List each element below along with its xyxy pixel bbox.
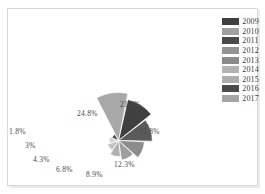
legend-label-2012: 2012 — [242, 46, 259, 55]
value-label-2009: 21.4% — [120, 100, 141, 109]
legend-item-2015[interactable]: 2015 — [222, 75, 259, 85]
legend-label-2017: 2017 — [242, 94, 259, 103]
legend-label-2013: 2013 — [242, 56, 259, 65]
legend-swatch-2014 — [222, 66, 239, 73]
legend-swatch-2011 — [222, 37, 239, 44]
legend-item-2009[interactable]: 2009 — [222, 17, 259, 27]
value-label-2014: 4.3% — [33, 155, 50, 164]
value-label-2012: 8.9% — [86, 170, 103, 179]
value-label-2015: 3% — [25, 141, 36, 150]
legend-label-2011: 2011 — [242, 36, 259, 45]
legend-swatch-2013 — [222, 57, 239, 64]
legend-item-2012[interactable]: 2012 — [222, 46, 259, 56]
legend-item-2017[interactable]: 2017 — [222, 94, 259, 104]
legend-swatch-2012 — [222, 47, 239, 54]
legend-item-2014[interactable]: 2014 — [222, 65, 259, 75]
legend-label-2015: 2015 — [242, 75, 259, 84]
legend-label-2009: 2009 — [242, 17, 259, 26]
legend-swatch-2017 — [222, 95, 239, 102]
value-label-2010: 16.8% — [139, 127, 160, 136]
legend-item-2016[interactable]: 2016 — [222, 84, 259, 94]
legend-label-2016: 2016 — [242, 84, 259, 93]
value-label-2013: 6.8% — [56, 165, 73, 174]
legend-label-2010: 2010 — [242, 27, 259, 36]
legend-label-2014: 2014 — [242, 65, 259, 74]
value-label-2011: 12.3% — [114, 160, 135, 169]
legend-swatch-2010 — [222, 28, 239, 35]
legend-swatch-2016 — [222, 85, 239, 92]
chart-legend: 2009 2010 2011 2012 2013 2014 2015 2016 — [222, 17, 259, 103]
legend-swatch-2015 — [222, 76, 239, 83]
legend-item-2010[interactable]: 2010 — [222, 27, 259, 37]
legend-item-2013[interactable]: 2013 — [222, 55, 259, 65]
value-label-2017: 24.8% — [77, 109, 98, 118]
legend-swatch-2009 — [222, 18, 239, 25]
rose-chart-figure: 2009 2010 2011 2012 2013 2014 2015 2016 — [0, 0, 265, 194]
value-label-2016: 1.8% — [9, 127, 26, 136]
legend-item-2011[interactable]: 2011 — [222, 36, 259, 46]
